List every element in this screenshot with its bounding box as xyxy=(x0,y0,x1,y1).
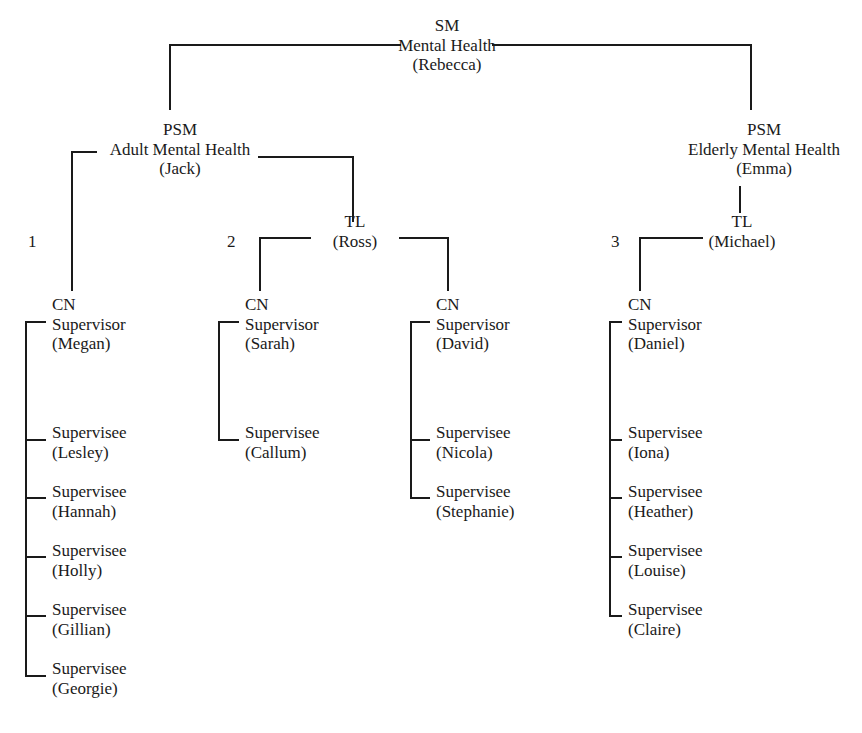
supervisee-holly-person: (Holly) xyxy=(52,561,127,581)
supervisee-georgie-person: (Georgie) xyxy=(52,679,127,699)
sm-person: (Rebecca) xyxy=(398,55,496,75)
psm-elderly-role: PSM xyxy=(688,120,840,140)
supervisee-lesley-person: (Lesley) xyxy=(52,443,127,463)
cn-sarah-title: Supervisor xyxy=(245,315,319,335)
supervisee-iona-person: (Iona) xyxy=(628,443,703,463)
supervisee-louise-title: Supervisee xyxy=(628,541,703,561)
cn-daniel-title: Supervisor xyxy=(628,315,702,335)
supervisee-callum-title: Supervisee xyxy=(245,423,320,443)
cn-megan-role: CN xyxy=(52,295,126,315)
supervisee-iona-title: Supervisee xyxy=(628,423,703,443)
cn-daniel-role: CN xyxy=(628,295,702,315)
node-supervisee-hannah[interactable]: Supervisee (Hannah) xyxy=(52,482,127,521)
supervisee-stephanie-person: (Stephanie) xyxy=(436,502,514,522)
supervisee-holly-title: Supervisee xyxy=(52,541,127,561)
tl-michael-person: (Michael) xyxy=(708,232,775,252)
edge-tl-michael-to-cn-daniel xyxy=(640,238,703,291)
supervisee-claire-title: Supervisee xyxy=(628,600,703,620)
node-cn-supervisor-david[interactable]: CN Supervisor (David) xyxy=(436,295,510,354)
node-psm-elderly-mental-health[interactable]: PSM Elderly Mental Health (Emma) xyxy=(688,120,840,179)
cn-david-title: Supervisor xyxy=(436,315,510,335)
supervisee-heather-title: Supervisee xyxy=(628,482,703,502)
edge-tl-ross-to-cn-sarah xyxy=(260,238,311,291)
edge-psm-adult-to-cn-megan xyxy=(72,152,97,291)
group-index-3: 3 xyxy=(611,232,620,251)
node-supervisee-claire[interactable]: Supervisee (Claire) xyxy=(628,600,703,639)
cn-sarah-person: (Sarah) xyxy=(245,334,319,354)
edge-sm-to-psm-elderly xyxy=(492,45,751,110)
sm-unit: Mental Health xyxy=(398,36,496,56)
supervisee-nicola-title: Supervisee xyxy=(436,423,511,443)
bracket-group-sarah xyxy=(219,322,239,440)
bracket-group-megan xyxy=(26,322,46,676)
psm-elderly-person: (Emma) xyxy=(688,159,840,179)
psm-adult-role: PSM xyxy=(110,120,251,140)
cn-david-role: CN xyxy=(436,295,510,315)
node-supervisee-stephanie[interactable]: Supervisee (Stephanie) xyxy=(436,482,514,521)
node-supervisee-holly[interactable]: Supervisee (Holly) xyxy=(52,541,127,580)
node-psm-adult-mental-health[interactable]: PSM Adult Mental Health (Jack) xyxy=(110,120,251,179)
cn-sarah-role: CN xyxy=(245,295,319,315)
node-supervisee-lesley[interactable]: Supervisee (Lesley) xyxy=(52,423,127,462)
bracket-group-daniel xyxy=(610,322,622,616)
node-tl-michael[interactable]: TL (Michael) xyxy=(708,212,775,251)
supervisee-nicola-person: (Nicola) xyxy=(436,443,511,463)
node-cn-supervisor-sarah[interactable]: CN Supervisor (Sarah) xyxy=(245,295,319,354)
node-cn-supervisor-daniel[interactable]: CN Supervisor (Daniel) xyxy=(628,295,702,354)
psm-adult-unit: Adult Mental Health xyxy=(110,140,251,160)
supervisee-hannah-person: (Hannah) xyxy=(52,502,127,522)
node-supervisee-georgie[interactable]: Supervisee (Georgie) xyxy=(52,659,127,698)
edge-tl-ross-to-cn-david xyxy=(399,238,448,291)
node-sm-mental-health[interactable]: SM Mental Health (Rebecca) xyxy=(398,16,496,75)
node-supervisee-louise[interactable]: Supervisee (Louise) xyxy=(628,541,703,580)
supervisee-louise-person: (Louise) xyxy=(628,561,703,581)
cn-daniel-person: (Daniel) xyxy=(628,334,702,354)
psm-adult-person: (Jack) xyxy=(110,159,251,179)
cn-david-person: (David) xyxy=(436,334,510,354)
supervisee-stephanie-title: Supervisee xyxy=(436,482,514,502)
node-supervisee-nicola[interactable]: Supervisee (Nicola) xyxy=(436,423,511,462)
connector-lines xyxy=(0,0,862,733)
node-supervisee-gillian[interactable]: Supervisee (Gillian) xyxy=(52,600,127,639)
node-supervisee-heather[interactable]: Supervisee (Heather) xyxy=(628,482,703,521)
group-index-2: 2 xyxy=(227,232,236,251)
supervisee-hannah-title: Supervisee xyxy=(52,482,127,502)
org-chart-canvas: SM Mental Health (Rebecca) PSM Adult Men… xyxy=(0,0,862,733)
supervisee-georgie-title: Supervisee xyxy=(52,659,127,679)
node-cn-supervisor-megan[interactable]: CN Supervisor (Megan) xyxy=(52,295,126,354)
supervisee-gillian-title: Supervisee xyxy=(52,600,127,620)
node-tl-ross[interactable]: TL (Ross) xyxy=(333,212,377,251)
psm-elderly-unit: Elderly Mental Health xyxy=(688,140,840,160)
edge-sm-to-psm-adult xyxy=(170,45,401,110)
bracket-group-david xyxy=(411,322,430,498)
supervisee-gillian-person: (Gillian) xyxy=(52,620,127,640)
supervisee-heather-person: (Heather) xyxy=(628,502,703,522)
cn-megan-person: (Megan) xyxy=(52,334,126,354)
node-supervisee-callum[interactable]: Supervisee (Callum) xyxy=(245,423,320,462)
node-supervisee-iona[interactable]: Supervisee (Iona) xyxy=(628,423,703,462)
cn-megan-title: Supervisor xyxy=(52,315,126,335)
group-index-1: 1 xyxy=(28,232,37,251)
supervisee-claire-person: (Claire) xyxy=(628,620,703,640)
supervisee-callum-person: (Callum) xyxy=(245,443,320,463)
tl-ross-person: (Ross) xyxy=(333,232,377,252)
supervisee-lesley-title: Supervisee xyxy=(52,423,127,443)
sm-role: SM xyxy=(398,16,496,36)
tl-ross-role: TL xyxy=(333,212,377,232)
tl-michael-role: TL xyxy=(708,212,775,232)
